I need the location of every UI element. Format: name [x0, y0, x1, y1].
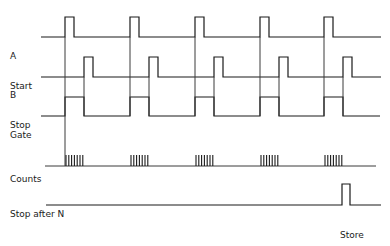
annotation-store: Store [340, 230, 373, 240]
label-stop-after-n: Stop after N [10, 189, 64, 239]
b-stop-waveform [41, 57, 381, 77]
label-counts-text: Counts [10, 174, 41, 184]
gate-waveform [41, 97, 380, 116]
stop-after-n-waveform [46, 184, 381, 205]
label-a: A [10, 51, 32, 61]
label-b: B [10, 90, 30, 100]
label-stop-after-n-text: Stop after N [10, 209, 64, 219]
label-gate-text: Gate [10, 130, 32, 140]
timing-diagram: A Start B Stop Gate Counts Stop after N … [0, 0, 390, 246]
label-gate: Gate [10, 110, 32, 160]
a-start-waveform [41, 17, 381, 37]
store-display-reset-annotation: Store Display Reset [340, 210, 373, 246]
